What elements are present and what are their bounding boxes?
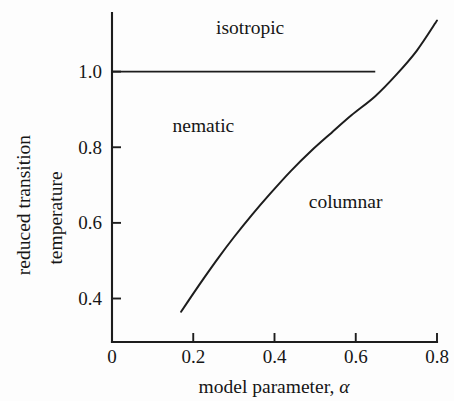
y-tick-label: 1.0 — [78, 61, 102, 82]
phase-diagram-figure: 00.20.40.60.8 0.40.60.81.0 isotropicnema… — [0, 0, 454, 401]
x-axis-title-symbol: α — [339, 376, 350, 397]
phase-boundary-curve — [181, 21, 437, 312]
x-tick-label: 0.4 — [263, 346, 287, 367]
phase-diagram-plot: 00.20.40.60.8 0.40.60.81.0 isotropicnema… — [0, 0, 454, 401]
axes-group — [112, 13, 437, 342]
phase-region-label: nematic — [173, 115, 235, 136]
x-tick-label: 0 — [107, 346, 117, 367]
y-axis-title-line-1: reduced transition — [13, 135, 34, 275]
y-tick-label: 0.4 — [78, 288, 102, 309]
y-tick-label: 0.8 — [78, 137, 102, 158]
x-tick-label: 0.6 — [344, 346, 368, 367]
phase-region-label: isotropic — [216, 17, 285, 38]
y-axis-tick-marks — [112, 72, 121, 299]
x-axis-title: model parameter, α — [199, 376, 351, 397]
y-tick-label: 0.6 — [78, 212, 102, 233]
y-axis-title-line-2: temperature — [45, 171, 66, 264]
phase-boundary-curves — [112, 21, 437, 312]
x-axis-title-text: model parameter, — [199, 376, 340, 397]
x-tick-label: 0.8 — [425, 346, 449, 367]
phase-region-label: columnar — [309, 191, 383, 212]
y-axis-tick-labels: 0.40.60.81.0 — [78, 61, 102, 309]
x-axis-tick-labels: 00.20.40.60.8 — [107, 346, 449, 367]
x-tick-label: 0.2 — [181, 346, 205, 367]
x-axis-tick-marks — [112, 333, 437, 342]
